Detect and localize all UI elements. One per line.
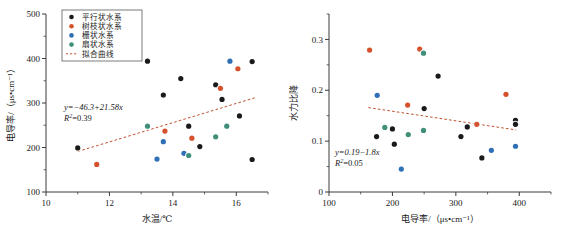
- data-point-marker: [219, 97, 224, 102]
- data-point[interactable]: [74, 144, 81, 151]
- data-point[interactable]: [420, 127, 427, 134]
- data-point[interactable]: [153, 155, 160, 162]
- data-point-marker: [435, 73, 440, 78]
- data-point[interactable]: [226, 58, 233, 65]
- legend-label: 平行状水系: [82, 12, 122, 22]
- y-axis-title: 水力比降: [288, 85, 299, 121]
- data-point[interactable]: [249, 156, 256, 163]
- data-point[interactable]: [144, 58, 151, 65]
- y-tick-label: 100: [27, 187, 41, 197]
- data-point-marker: [178, 76, 183, 81]
- data-point[interactable]: [217, 85, 224, 92]
- data-point[interactable]: [405, 131, 412, 138]
- data-point[interactable]: [236, 112, 243, 119]
- figure-container: 10020030040050010121416水温/℃电导率/（μs•cm⁻¹）…: [0, 0, 565, 235]
- data-point[interactable]: [434, 72, 441, 79]
- data-point[interactable]: [374, 92, 381, 99]
- data-point[interactable]: [196, 143, 203, 150]
- data-point-marker: [374, 134, 379, 139]
- data-point-marker: [367, 48, 372, 53]
- data-point[interactable]: [488, 147, 495, 154]
- data-point-marker: [465, 124, 470, 129]
- data-point[interactable]: [218, 96, 225, 103]
- data-point-marker: [224, 124, 229, 129]
- x-tick-label: 300: [449, 198, 463, 208]
- data-point-marker: [503, 92, 508, 97]
- data-point[interactable]: [160, 91, 167, 98]
- data-point[interactable]: [502, 91, 509, 98]
- data-point-marker: [382, 125, 387, 130]
- legend-label: 拟合曲线: [82, 49, 114, 59]
- x-tick-label: 400: [513, 198, 527, 208]
- data-point[interactable]: [391, 141, 398, 148]
- data-point-marker: [145, 59, 150, 64]
- y-tick-label: 0.2: [312, 85, 323, 95]
- data-point[interactable]: [457, 133, 464, 140]
- legend-label: 扇状水系: [82, 39, 114, 49]
- data-point-marker: [422, 106, 427, 111]
- legend-label: 树枝状水系: [82, 21, 122, 31]
- data-point[interactable]: [249, 58, 256, 65]
- data-point[interactable]: [421, 105, 428, 112]
- data-point[interactable]: [381, 124, 388, 131]
- data-point-marker: [161, 139, 166, 144]
- data-point[interactable]: [473, 121, 480, 128]
- data-point[interactable]: [161, 127, 168, 134]
- data-point-marker: [392, 142, 397, 147]
- data-point[interactable]: [234, 65, 241, 72]
- x-tick-label: 12: [105, 198, 114, 208]
- data-point-marker: [479, 155, 484, 160]
- data-point-marker: [237, 113, 242, 118]
- data-point-marker: [218, 86, 223, 91]
- data-point[interactable]: [93, 161, 100, 168]
- data-point[interactable]: [373, 133, 380, 140]
- data-point-marker: [375, 93, 380, 98]
- data-point[interactable]: [420, 50, 427, 57]
- legend-marker-3: [69, 42, 74, 47]
- data-point-marker: [75, 145, 80, 150]
- x-tick-label: 14: [168, 198, 178, 208]
- data-point[interactable]: [188, 135, 195, 142]
- data-point[interactable]: [160, 138, 167, 145]
- data-point[interactable]: [478, 154, 485, 161]
- chart-panel-left: 10020030040050010121416水温/℃电导率/（μs•cm⁻¹）…: [0, 0, 282, 235]
- y-axis-title: 电导率/（μs•cm⁻¹）: [5, 64, 16, 141]
- data-point-marker: [227, 59, 232, 64]
- data-point-marker: [94, 162, 99, 167]
- data-point[interactable]: [177, 75, 184, 82]
- data-point-marker: [161, 92, 166, 97]
- data-point-marker: [399, 167, 404, 172]
- data-point-marker: [250, 157, 255, 162]
- y-tick-label: 400: [27, 54, 41, 64]
- data-point[interactable]: [512, 121, 519, 128]
- data-point-marker: [390, 126, 395, 131]
- data-point[interactable]: [144, 123, 151, 130]
- data-point[interactable]: [185, 152, 192, 159]
- regression-equation: y=−46.3+21.58x: [63, 102, 123, 112]
- scatter-plot-left: 10020030040050010121416水温/℃电导率/（μs•cm⁻¹）…: [0, 0, 282, 235]
- y-tick-label: 200: [27, 143, 41, 153]
- data-point[interactable]: [464, 123, 471, 130]
- data-point[interactable]: [398, 166, 405, 173]
- legend-marker-2: [69, 33, 74, 38]
- data-point[interactable]: [185, 123, 192, 130]
- legend-label: 栅状水系: [82, 30, 114, 40]
- y-tick-label: 0.1: [312, 136, 323, 146]
- data-point-marker: [213, 134, 218, 139]
- data-point[interactable]: [366, 47, 373, 54]
- data-point[interactable]: [404, 101, 411, 108]
- legend-marker-0: [69, 15, 74, 20]
- regression-equation: y=0.19−1.8x: [334, 147, 380, 157]
- data-point[interactable]: [223, 123, 230, 130]
- data-point-marker: [513, 122, 518, 127]
- x-tick-label: 200: [386, 198, 400, 208]
- data-point[interactable]: [512, 143, 519, 150]
- x-axis-title: 电导率/（μs•cm⁻¹）: [401, 213, 478, 224]
- data-point-marker: [474, 122, 479, 127]
- data-point-marker: [405, 102, 410, 107]
- data-point[interactable]: [212, 133, 219, 140]
- data-point-marker: [513, 144, 518, 149]
- r-squared-value: R2=0.05: [334, 158, 363, 168]
- data-point[interactable]: [389, 125, 396, 132]
- x-tick-label: 16: [232, 198, 242, 208]
